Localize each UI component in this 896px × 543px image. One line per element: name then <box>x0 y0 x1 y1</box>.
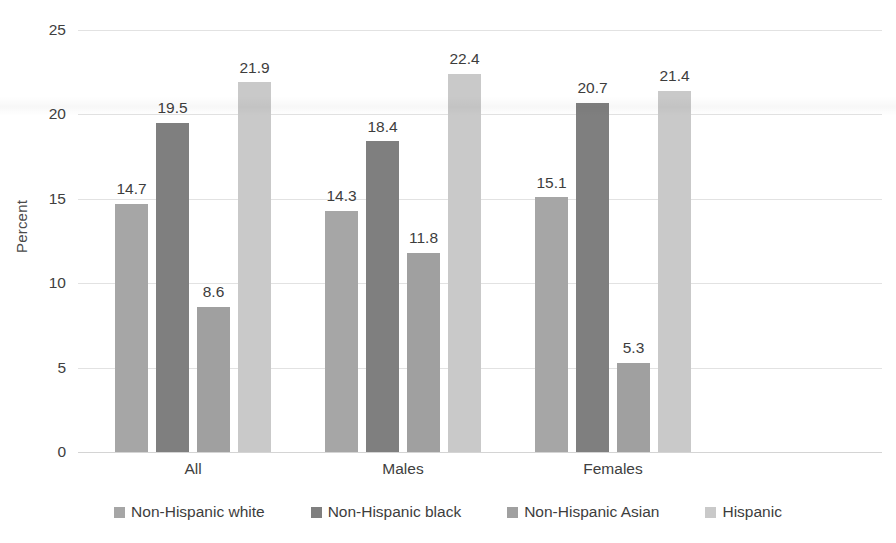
bar-slot: 15.1 <box>535 30 568 452</box>
bar-value-label: 22.4 <box>449 51 479 67</box>
y-axis-title-text: Percent <box>14 199 31 252</box>
bar-slot: 14.3 <box>325 30 358 452</box>
bar-value-label: 11.8 <box>409 230 438 246</box>
bar[interactable] <box>325 211 358 452</box>
bar[interactable] <box>156 123 189 452</box>
bar-chart: Percent 0510152025 14.719.58.621.914.318… <box>0 0 896 543</box>
bar-slot: 21.9 <box>238 30 271 452</box>
bar-value-label: 14.7 <box>116 181 146 197</box>
bar-group: 14.719.58.621.9 <box>115 30 271 452</box>
bar-value-label: 19.5 <box>157 100 187 116</box>
bar[interactable] <box>366 141 399 452</box>
y-tick-label: 5 <box>30 360 66 376</box>
x-tick-label: Males <box>382 460 423 478</box>
legend-label: Non-Hispanic black <box>328 503 462 521</box>
axis-baseline <box>78 452 882 453</box>
bar-slot: 5.3 <box>617 30 650 452</box>
bar[interactable] <box>238 82 271 452</box>
bar[interactable] <box>448 74 481 452</box>
legend-item[interactable]: Non-Hispanic white <box>114 503 265 521</box>
legend-swatch-icon <box>705 507 716 518</box>
y-tick-label: 25 <box>30 22 66 38</box>
y-tick-label: 15 <box>30 191 66 207</box>
legend-item[interactable]: Non-Hispanic Asian <box>507 503 659 521</box>
legend-item[interactable]: Hispanic <box>705 503 781 521</box>
legend-swatch-icon <box>507 507 518 518</box>
bar[interactable] <box>658 91 691 452</box>
bar-slot: 11.8 <box>407 30 440 452</box>
y-tick-label: 20 <box>30 107 66 123</box>
bar[interactable] <box>407 253 440 452</box>
bar-slot: 8.6 <box>197 30 230 452</box>
x-tick-label: All <box>184 460 201 478</box>
bar-slot: 19.5 <box>156 30 189 452</box>
bar-value-label: 14.3 <box>326 188 356 204</box>
x-axis-category-labels: AllMalesFemales <box>78 460 882 484</box>
y-axis-tick-labels: 0510152025 <box>30 0 66 452</box>
plot-area: 14.719.58.621.914.318.411.822.415.120.75… <box>78 30 882 452</box>
bar-value-label: 21.4 <box>659 68 689 84</box>
bar-value-label: 20.7 <box>577 80 607 96</box>
bar-slot: 14.7 <box>115 30 148 452</box>
bar-slot: 20.7 <box>576 30 609 452</box>
legend-label: Non-Hispanic white <box>131 503 265 521</box>
bar-group: 14.318.411.822.4 <box>325 30 481 452</box>
bar-value-label: 15.1 <box>536 175 566 191</box>
legend-item[interactable]: Non-Hispanic black <box>311 503 462 521</box>
bar-value-label: 21.9 <box>239 60 269 76</box>
bar-value-label: 8.6 <box>203 284 225 300</box>
bar-value-label: 18.4 <box>367 119 397 135</box>
legend-swatch-icon <box>311 507 322 518</box>
legend-swatch-icon <box>114 507 125 518</box>
bar-value-label: 5.3 <box>623 340 645 356</box>
bar-group: 15.120.75.321.4 <box>535 30 691 452</box>
bar[interactable] <box>115 204 148 452</box>
bar[interactable] <box>576 103 609 452</box>
y-tick-label: 0 <box>30 444 66 460</box>
x-tick-label: Females <box>583 460 642 478</box>
legend-label: Non-Hispanic Asian <box>524 503 659 521</box>
bar[interactable] <box>197 307 230 452</box>
bar-slot: 18.4 <box>366 30 399 452</box>
bar[interactable] <box>617 363 650 452</box>
bar-slot: 22.4 <box>448 30 481 452</box>
y-tick-label: 10 <box>30 275 66 291</box>
chart-legend: Non-Hispanic whiteNon-Hispanic blackNon-… <box>0 503 896 521</box>
bar[interactable] <box>535 197 568 452</box>
legend-label: Hispanic <box>722 503 781 521</box>
bar-slot: 21.4 <box>658 30 691 452</box>
